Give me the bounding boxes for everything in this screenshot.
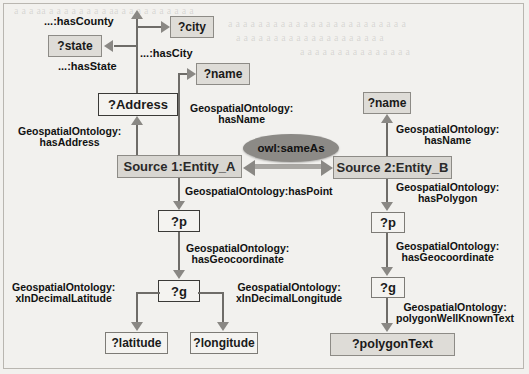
arrowhead-has-name-right — [381, 114, 393, 123]
arrowhead-has-geocoordinate-right — [381, 267, 393, 276]
node-state[interactable]: ?state — [48, 35, 102, 57]
edge-label-has-name-right-line2: hasName — [424, 134, 471, 146]
edge-line-polygon-wkt — [386, 298, 388, 326]
node-name-right[interactable]: ?name — [363, 92, 411, 114]
edge-label-has-city: ...:hasCity — [140, 48, 193, 60]
node-address[interactable]: ?Address — [98, 93, 178, 116]
node-p-left[interactable]: ?p — [158, 210, 200, 232]
edge-label-x-in-decimal-longitude-line2: xInDecimalLongitude — [236, 292, 342, 304]
node-g-left[interactable]: ?g — [158, 280, 200, 302]
edge-label-has-geocoordinate-right: GeospatialOntology: hasGeocoordinate — [396, 241, 499, 263]
edge-label-has-geocoordinate-right-line2: hasGeocoordinate — [402, 251, 494, 263]
edge-label-has-name-left-line2: hasName — [218, 113, 265, 125]
node-source1-entity-a[interactable]: Source 1:Entity_A — [117, 155, 242, 178]
arrowhead-longitude — [217, 322, 229, 331]
edge-label-has-geocoordinate-left-line2: hasGeocoordinate — [192, 253, 284, 265]
edge-label-has-name-right: GeospatialOntology: hasName — [396, 124, 499, 146]
edge-label-has-address-line2: hasAddress — [40, 136, 100, 148]
edge-line-same-as — [252, 164, 324, 169]
edge-line-has-geocoordinate-right — [386, 233, 388, 269]
arrowhead-has-state — [104, 40, 113, 52]
edge-label-x-in-decimal-latitude: GeospatialOntology: xInDecimalLatitude — [12, 282, 115, 304]
edge-label-polygon-wkt: GeospatialOntology: polygonWellKnownText — [396, 302, 514, 324]
edge-line-latitude-vertical — [136, 292, 138, 324]
arrowhead-has-city — [161, 21, 170, 33]
edge-line-has-city — [136, 26, 164, 28]
diagram-canvas: a a a aa a a a a a a a a aa a a a a a a … — [0, 0, 529, 374]
edge-line-longitude-vertical — [222, 292, 224, 324]
arrowhead-has-county — [131, 10, 143, 19]
node-p-right[interactable]: ?p — [371, 212, 405, 233]
edge-line-has-address — [136, 124, 138, 156]
arrowhead-same-as-right — [321, 160, 333, 176]
edge-label-has-address: GeospatialOntology: hasAddress — [18, 126, 121, 148]
edge-label-polygon-wkt-line2: polygonWellKnownText — [396, 312, 514, 324]
arrowhead-latitude — [131, 322, 143, 331]
edge-line-has-state — [114, 45, 138, 47]
edge-label-has-point: GeospatialOntology:hasPoint — [185, 186, 333, 197]
edge-label-x-in-decimal-longitude: GeospatialOntology: xInDecimalLongitude — [236, 282, 342, 304]
edge-line-address-spine — [136, 18, 138, 94]
arrowhead-has-address — [131, 116, 143, 125]
arrowhead-polygon-wkt — [381, 323, 393, 332]
edge-label-has-state: ...:hasState — [58, 61, 117, 73]
arrowhead-same-as-left — [243, 160, 255, 176]
node-name-left[interactable]: ?name — [196, 63, 250, 85]
arrowhead-has-polygon — [381, 202, 393, 211]
edge-line-latitude-horizontal — [136, 292, 160, 294]
edge-line-longitude-horizontal — [198, 292, 224, 294]
node-g-right[interactable]: ?g — [371, 277, 405, 298]
arrowhead-has-geocoordinate-left — [173, 270, 185, 279]
node-polygon-text[interactable]: ?polygonText — [330, 333, 455, 356]
edge-label-has-geocoordinate-left: GeospatialOntology: hasGeocoordinate — [186, 243, 289, 265]
edge-label-x-in-decimal-latitude-line2: xInDecimalLatitude — [15, 292, 111, 304]
edge-label-same-as: owl:sameAs — [243, 134, 339, 162]
edge-label-has-county: ...:hasCounty — [44, 16, 114, 28]
node-longitude[interactable]: ?longitude — [190, 332, 258, 354]
edge-label-has-polygon-line2: hasPolygon — [418, 192, 478, 204]
node-latitude[interactable]: ?latitude — [105, 332, 168, 354]
node-source2-entity-b[interactable]: Source 2:Entity_B — [333, 156, 452, 179]
node-city[interactable]: ?city — [170, 16, 214, 38]
edge-line-has-geocoordinate-left — [178, 232, 180, 272]
arrowhead-has-name-left — [187, 68, 196, 80]
edge-label-has-name-left: GeospatialOntology: hasName — [190, 103, 293, 125]
arrowhead-has-point — [173, 201, 185, 210]
edge-line-has-name-left-vertical — [178, 74, 180, 156]
edge-line-has-name-right — [386, 122, 388, 156]
edge-label-has-polygon: GeospatialOntology: hasPolygon — [396, 182, 499, 204]
